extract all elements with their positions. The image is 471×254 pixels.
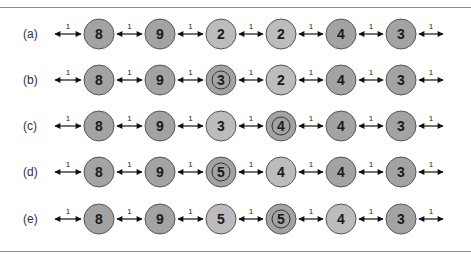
node-value: 3 xyxy=(397,164,405,180)
list-node: 3 xyxy=(206,65,236,95)
edge-weight: 1 xyxy=(127,207,132,216)
edge-weight: 1 xyxy=(309,160,314,169)
list-node: 3 xyxy=(386,157,416,187)
edge-weight: 1 xyxy=(369,22,374,31)
list-node: 3 xyxy=(206,111,236,141)
list-node: 4 xyxy=(266,111,296,141)
list-node: 5 xyxy=(206,157,236,187)
edge-weight: 1 xyxy=(188,160,193,169)
edge-weight: 1 xyxy=(66,207,71,216)
edge-weight: 1 xyxy=(369,68,374,77)
node-value: 9 xyxy=(156,211,164,227)
list-node: 4 xyxy=(326,19,356,49)
list-node: 2 xyxy=(266,19,296,49)
row-label: (e) xyxy=(23,212,38,226)
list-node: 4 xyxy=(326,65,356,95)
list-node: 2 xyxy=(206,19,236,49)
list-node: 4 xyxy=(326,111,356,141)
list-node: 8 xyxy=(84,19,114,49)
list-node: 4 xyxy=(326,204,356,234)
node-value: 9 xyxy=(156,26,164,42)
node-value: 3 xyxy=(217,118,225,134)
row-b: (b)1111111893243 xyxy=(23,65,443,95)
list-node: 5 xyxy=(266,204,296,234)
edge-weight: 1 xyxy=(369,160,374,169)
node-value: 3 xyxy=(397,211,405,227)
list-node: 8 xyxy=(84,111,114,141)
edge-weight: 1 xyxy=(66,114,71,123)
list-node: 2 xyxy=(266,65,296,95)
list-node: 5 xyxy=(206,204,236,234)
list-node: 9 xyxy=(145,19,175,49)
edge-weight: 1 xyxy=(66,22,71,31)
list-node: 9 xyxy=(145,65,175,95)
node-value: 8 xyxy=(95,118,103,134)
node-value: 9 xyxy=(156,72,164,88)
edge-weight: 1 xyxy=(249,114,254,123)
row-d: (d)1111111895443 xyxy=(23,157,443,187)
list-node: 4 xyxy=(326,157,356,187)
row-label: (d) xyxy=(23,165,38,179)
node-value: 8 xyxy=(95,26,103,42)
node-value: 9 xyxy=(156,118,164,134)
edge-weight: 1 xyxy=(309,22,314,31)
list-node: 3 xyxy=(386,204,416,234)
node-value: 5 xyxy=(217,164,225,180)
node-value: 4 xyxy=(337,118,345,134)
edge-weight: 1 xyxy=(249,207,254,216)
edge-weight: 1 xyxy=(127,114,132,123)
edge-weight: 1 xyxy=(249,68,254,77)
edge-weight: 1 xyxy=(429,160,434,169)
node-value: 4 xyxy=(337,72,345,88)
node-value: 2 xyxy=(277,26,285,42)
edge-weight: 1 xyxy=(127,22,132,31)
node-value: 3 xyxy=(397,26,405,42)
edge-weight: 1 xyxy=(309,68,314,77)
edge-weight: 1 xyxy=(249,160,254,169)
edge-weight: 1 xyxy=(188,207,193,216)
list-node: 3 xyxy=(386,19,416,49)
edge-weight: 1 xyxy=(188,22,193,31)
row-label: (b) xyxy=(23,73,38,87)
edge-weight: 1 xyxy=(429,22,434,31)
node-value: 5 xyxy=(217,211,225,227)
row-c: (c)1111111893443 xyxy=(23,111,443,141)
list-node: 4 xyxy=(266,157,296,187)
edge-weight: 1 xyxy=(309,207,314,216)
row-label: (c) xyxy=(23,119,37,133)
node-value: 4 xyxy=(337,26,345,42)
node-value: 8 xyxy=(95,211,103,227)
list-node: 3 xyxy=(386,111,416,141)
node-value: 4 xyxy=(277,118,285,134)
edge-weight: 1 xyxy=(429,114,434,123)
edge-weight: 1 xyxy=(66,160,71,169)
row-e: (e)1111111895543 xyxy=(23,204,443,234)
node-value: 3 xyxy=(397,72,405,88)
list-node: 8 xyxy=(84,157,114,187)
list-node: 9 xyxy=(145,204,175,234)
edge-weight: 1 xyxy=(249,22,254,31)
edge-weight: 1 xyxy=(66,68,71,77)
row-label: (a) xyxy=(23,27,38,41)
node-value: 2 xyxy=(217,26,225,42)
node-value: 4 xyxy=(337,211,345,227)
edge-weight: 1 xyxy=(429,68,434,77)
edge-weight: 1 xyxy=(127,68,132,77)
row-a: (a)1111111892243 xyxy=(23,19,443,49)
node-value: 3 xyxy=(397,118,405,134)
edge-weight: 1 xyxy=(188,68,193,77)
edge-weight: 1 xyxy=(369,114,374,123)
node-value: 9 xyxy=(156,164,164,180)
list-node: 3 xyxy=(386,65,416,95)
node-value: 5 xyxy=(277,211,285,227)
list-node: 8 xyxy=(84,204,114,234)
edge-weight: 1 xyxy=(309,114,314,123)
node-value: 8 xyxy=(95,164,103,180)
node-value: 8 xyxy=(95,72,103,88)
edge-weight: 1 xyxy=(369,207,374,216)
edge-weight: 1 xyxy=(188,114,193,123)
edge-weight: 1 xyxy=(127,160,132,169)
list-node: 9 xyxy=(145,157,175,187)
node-value: 4 xyxy=(337,164,345,180)
linked-list-diagram: (a)1111111892243(b)1111111893243(c)11111… xyxy=(0,0,471,254)
